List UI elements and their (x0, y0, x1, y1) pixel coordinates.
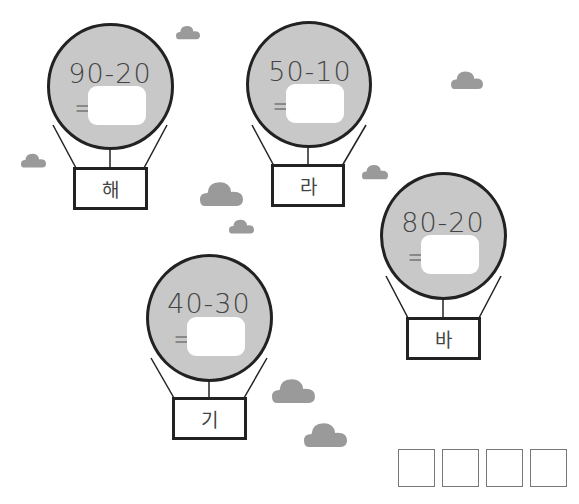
balloon-hae: 90-20 = 해 (30, 0, 190, 220)
answer-input[interactable] (421, 235, 479, 274)
basket-label: 바 (406, 317, 481, 360)
expression: 40-30 (129, 288, 289, 319)
basket-label: 라 (271, 164, 345, 207)
final-answer-boxes (398, 449, 567, 487)
answer-input[interactable] (88, 86, 146, 125)
basket-label: 해 (73, 167, 148, 210)
expression: 80-20 (363, 207, 523, 238)
balloon-gi: 40-30 = 기 (129, 232, 289, 452)
final-answer-box-1[interactable] (398, 449, 435, 487)
cloud-icon (304, 417, 347, 451)
expression: 50-10 (230, 56, 390, 87)
expression: 90-20 (30, 58, 190, 89)
answer-input[interactable] (286, 84, 344, 123)
basket-label: 기 (172, 397, 247, 440)
cloud-icon (451, 66, 483, 93)
final-answer-box-3[interactable] (486, 449, 523, 487)
final-answer-box-2[interactable] (442, 449, 479, 487)
answer-input[interactable] (187, 317, 245, 356)
balloon-ba: 80-20 = 바 (363, 150, 523, 370)
final-answer-box-4[interactable] (530, 449, 567, 487)
